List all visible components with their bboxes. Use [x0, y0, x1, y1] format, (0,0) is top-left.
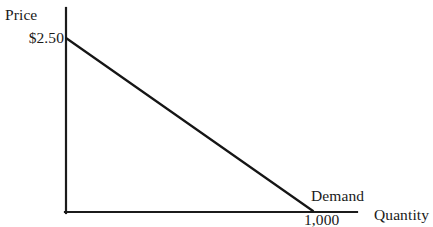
demand-curve-label: Demand — [311, 188, 364, 204]
y-axis-tick-label-price: $2.50 — [0, 30, 64, 46]
demand-curve-line — [66, 38, 313, 211]
demand-curve-figure: Price $2.50 Demand 1,000 Quantity — [0, 0, 433, 227]
y-axis-title: Price — [5, 7, 37, 23]
x-axis-title: Quantity — [374, 207, 429, 223]
plot-area — [0, 0, 433, 227]
x-axis-tick-label-quantity: 1,000 — [304, 212, 339, 227]
